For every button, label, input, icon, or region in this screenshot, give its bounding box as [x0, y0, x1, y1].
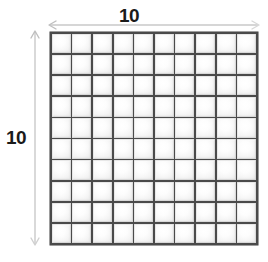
grid-cell — [175, 97, 194, 117]
grid-cell — [52, 97, 71, 117]
grid-cell — [217, 76, 236, 96]
unit-square-grid — [50, 32, 258, 245]
grid-cell — [237, 182, 256, 202]
grid-cell — [72, 203, 91, 223]
grid-cell — [52, 203, 71, 223]
grid-cell — [134, 203, 153, 223]
grid-cell — [114, 118, 133, 138]
grid-cell — [217, 182, 236, 202]
grid-cell — [52, 34, 71, 54]
grid-cell — [114, 203, 133, 223]
grid-cell — [134, 34, 153, 54]
grid-cell — [237, 139, 256, 159]
grid-cell — [52, 139, 71, 159]
grid-cell — [72, 182, 91, 202]
grid-cell — [217, 34, 236, 54]
grid-cell — [217, 224, 236, 244]
grid-cell — [93, 76, 112, 96]
grid-cell — [196, 118, 215, 138]
grid-cell — [114, 139, 133, 159]
grid-cell — [217, 203, 236, 223]
grid-cell — [52, 118, 71, 138]
grid-cell — [237, 160, 256, 180]
grid-cell — [93, 34, 112, 54]
grid-cell — [114, 224, 133, 244]
grid-cell — [114, 55, 133, 75]
grid-cell — [237, 203, 256, 223]
grid-cell — [93, 55, 112, 75]
grid-cell — [175, 203, 194, 223]
grid-cell — [155, 139, 174, 159]
grid-cell — [114, 182, 133, 202]
grid-cell — [175, 55, 194, 75]
grid-cell — [114, 160, 133, 180]
grid-cell — [72, 55, 91, 75]
grid-cell — [134, 182, 153, 202]
grid-cell — [217, 139, 236, 159]
grid-cell — [155, 182, 174, 202]
grid-cell — [155, 76, 174, 96]
grid-cell — [196, 139, 215, 159]
grid-cell — [196, 34, 215, 54]
grid-cell — [72, 118, 91, 138]
grid-cell — [93, 224, 112, 244]
grid-cell — [196, 97, 215, 117]
grid-cell — [155, 203, 174, 223]
grid-cell — [72, 97, 91, 117]
grid-cell — [93, 118, 112, 138]
grid-cell — [196, 182, 215, 202]
grid-cell — [155, 224, 174, 244]
grid-cell — [134, 76, 153, 96]
grid-cell — [134, 160, 153, 180]
grid-cell — [93, 139, 112, 159]
grid-cell — [217, 55, 236, 75]
grid-cell — [175, 76, 194, 96]
grid-cell — [237, 97, 256, 117]
grid-cell — [217, 118, 236, 138]
grid-cell — [134, 118, 153, 138]
grid-cell — [237, 55, 256, 75]
grid-cell — [72, 224, 91, 244]
grid-cell — [217, 97, 236, 117]
grid-cell — [134, 224, 153, 244]
grid-cell — [134, 55, 153, 75]
grid-cell — [93, 97, 112, 117]
grid-cell — [52, 55, 71, 75]
grid-cell — [72, 34, 91, 54]
grid-cell — [237, 224, 256, 244]
grid-cell — [237, 76, 256, 96]
grid-cell — [93, 182, 112, 202]
grid-cell — [72, 76, 91, 96]
top-dimension-arrow-icon — [44, 18, 264, 32]
grid-cell — [237, 118, 256, 138]
grid-cell — [52, 160, 71, 180]
grid-cell — [237, 34, 256, 54]
grid-cell — [93, 203, 112, 223]
area-model-figure: 10 10 — [0, 0, 268, 262]
left-dimension-arrow-icon — [28, 26, 42, 250]
grid-cell — [134, 97, 153, 117]
grid-cell — [114, 34, 133, 54]
grid-cell — [196, 160, 215, 180]
grid-cell — [196, 76, 215, 96]
grid-cell — [175, 224, 194, 244]
grid-cell — [217, 160, 236, 180]
grid-cell — [52, 224, 71, 244]
grid-cell — [196, 224, 215, 244]
left-dimension-label: 10 — [6, 128, 26, 147]
grid-cell — [155, 34, 174, 54]
grid-cell — [175, 160, 194, 180]
grid-cell — [114, 97, 133, 117]
grid-cell — [114, 76, 133, 96]
grid-cell — [52, 76, 71, 96]
grid-cell — [155, 55, 174, 75]
grid-cell — [155, 97, 174, 117]
grid-cell — [175, 34, 194, 54]
grid-cell — [175, 118, 194, 138]
grid-cell — [175, 182, 194, 202]
grid-cell — [134, 139, 153, 159]
grid-cell — [93, 160, 112, 180]
grid-cell — [155, 118, 174, 138]
grid-cell — [155, 160, 174, 180]
grid-cell — [196, 203, 215, 223]
